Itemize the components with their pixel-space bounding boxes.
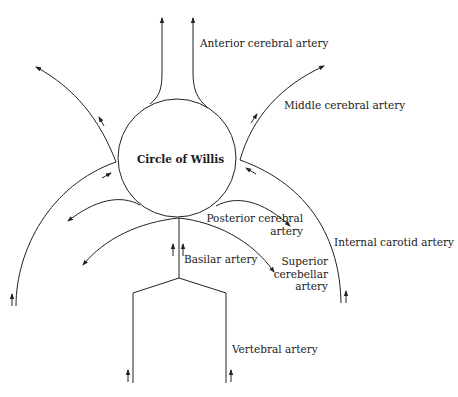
superior-cerebellar-line-1: Superior xyxy=(262,255,328,268)
anterior-cerebral-artery-right xyxy=(193,18,208,108)
vertebral-artery-label: Vertebral artery xyxy=(232,343,318,356)
internal-carotid-artery-label: Internal carotid artery xyxy=(334,236,454,249)
vertebral-artery-right xyxy=(179,278,226,383)
superior-cerebellar-artery-label: Superior cerebellar artery xyxy=(262,255,328,293)
basilar-artery-label: Basilar artery xyxy=(184,253,257,266)
flow-arrow-mca-right xyxy=(251,114,257,123)
vessel-drawing xyxy=(0,0,458,397)
anterior-cerebral-artery-left xyxy=(150,18,162,104)
anterior-cerebral-artery-label: Anterior cerebral artery xyxy=(200,37,329,50)
vertebral-artery-left xyxy=(133,278,179,383)
middle-cerebral-artery-label: Middle cerebral artery xyxy=(284,99,405,112)
superior-cerebellar-line-3: artery xyxy=(262,280,328,293)
internal-carotid-artery-left xyxy=(16,162,116,306)
circle-of-willis-diagram: Circle of Willis Anterior cerebral arter… xyxy=(0,0,458,397)
posterior-cerebral-line-1: Posterior cerebral xyxy=(206,212,303,225)
flow-arrow-carotid-right xyxy=(246,168,256,174)
superior-cerebellar-artery-left xyxy=(83,218,179,265)
superior-cerebellar-line-2: cerebellar xyxy=(262,268,328,281)
circle-of-willis-label: Circle of Willis xyxy=(137,153,224,166)
posterior-cerebral-line-2: artery xyxy=(206,225,303,238)
middle-cerebral-artery-left xyxy=(36,67,116,162)
middle-cerebral-artery-right xyxy=(240,66,324,160)
flow-arrow-mca-left xyxy=(99,117,104,126)
posterior-cerebral-artery-label: Posterior cerebral artery xyxy=(206,212,303,237)
flow-arrow-carotid-left xyxy=(102,173,111,178)
posterior-cerebral-artery-left xyxy=(68,200,140,221)
